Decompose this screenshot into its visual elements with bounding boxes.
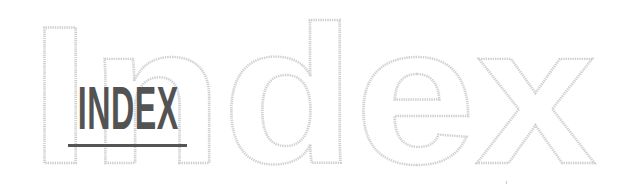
- label-underline: [68, 144, 187, 147]
- index-label-text: INDEX: [77, 77, 178, 139]
- decorative-speck: [506, 181, 507, 184]
- index-logo: Index INDEX: [0, 0, 633, 185]
- index-label: INDEX: [66, 76, 190, 140]
